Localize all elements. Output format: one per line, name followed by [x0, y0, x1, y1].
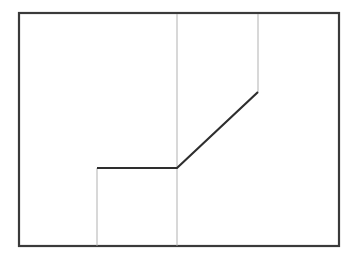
diagram-canvas: [0, 0, 351, 261]
background: [0, 0, 351, 261]
